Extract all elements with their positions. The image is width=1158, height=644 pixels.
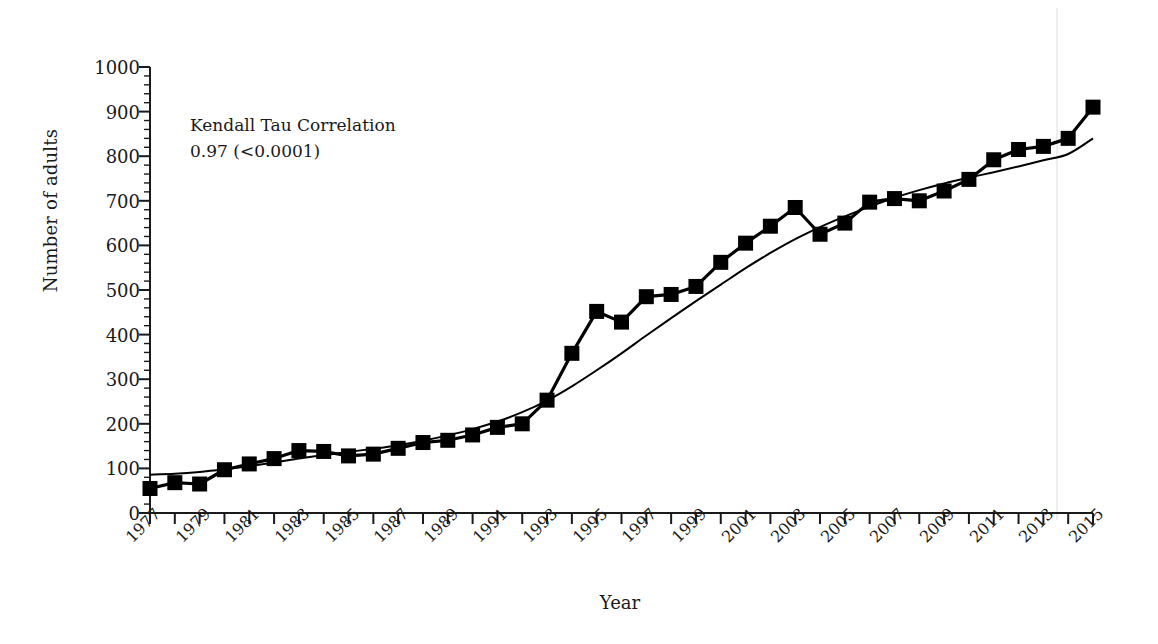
data-markers bbox=[143, 100, 1101, 496]
data-line bbox=[150, 107, 1093, 488]
data-marker bbox=[912, 193, 927, 208]
data-marker bbox=[1086, 100, 1101, 115]
data-marker bbox=[167, 475, 182, 490]
data-marker bbox=[1061, 131, 1076, 146]
data-marker bbox=[713, 255, 728, 270]
data-marker bbox=[862, 195, 877, 210]
data-marker bbox=[490, 420, 505, 435]
data-marker bbox=[614, 315, 629, 330]
data-marker bbox=[143, 481, 158, 496]
data-marker bbox=[986, 152, 1001, 167]
plot-area bbox=[0, 0, 1158, 644]
data-marker bbox=[366, 447, 381, 462]
data-marker bbox=[217, 462, 232, 477]
data-marker bbox=[788, 200, 803, 215]
data-marker bbox=[316, 444, 331, 459]
data-marker bbox=[639, 289, 654, 304]
data-marker bbox=[341, 448, 356, 463]
data-marker bbox=[391, 441, 406, 456]
data-marker bbox=[465, 427, 480, 442]
data-marker bbox=[961, 172, 976, 187]
data-marker bbox=[267, 451, 282, 466]
data-marker bbox=[738, 236, 753, 251]
data-marker bbox=[515, 416, 530, 431]
data-marker bbox=[540, 393, 555, 408]
data-marker bbox=[291, 443, 306, 458]
data-marker bbox=[242, 456, 257, 471]
data-marker bbox=[688, 279, 703, 294]
data-marker bbox=[415, 435, 430, 450]
data-marker bbox=[813, 227, 828, 242]
data-marker bbox=[763, 219, 778, 234]
data-marker bbox=[440, 433, 455, 448]
data-marker bbox=[664, 287, 679, 302]
data-marker bbox=[564, 346, 579, 361]
data-marker bbox=[1036, 139, 1051, 154]
data-marker bbox=[837, 216, 852, 231]
data-marker bbox=[937, 183, 952, 198]
data-marker bbox=[589, 304, 604, 319]
data-marker bbox=[192, 477, 207, 492]
data-marker bbox=[887, 191, 902, 206]
data-marker bbox=[1011, 142, 1026, 157]
chart-figure: Number of adults Year Kendall Tau Correl… bbox=[0, 0, 1158, 644]
